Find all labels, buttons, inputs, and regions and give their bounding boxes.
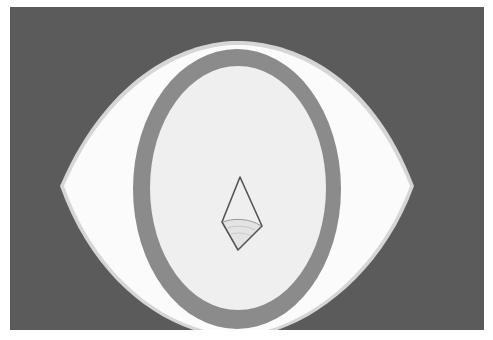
iris-inner	[150, 66, 326, 310]
eye-illustration	[0, 0, 493, 340]
eye-figure	[0, 0, 493, 340]
